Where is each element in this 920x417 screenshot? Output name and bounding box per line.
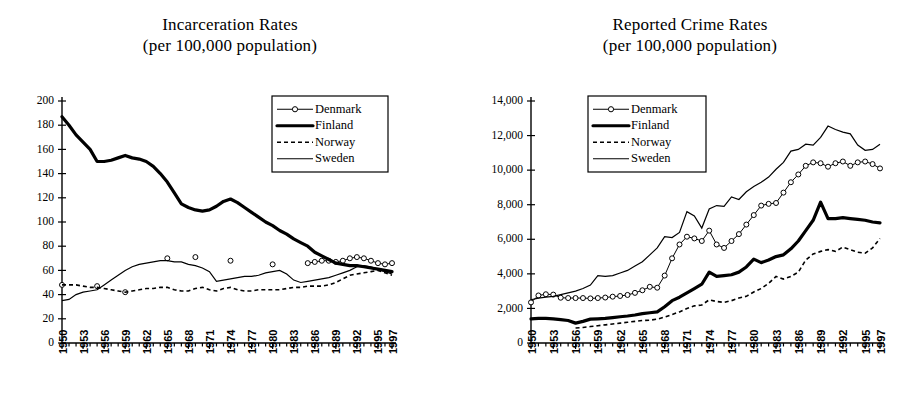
legend-label-denmark: Denmark [631,102,678,116]
x-tick-label: 1974 [704,329,716,354]
series-marker-denmark [707,228,712,233]
x-tick-label: 1989 [330,330,342,354]
x-tick-label: 1956 [570,330,582,354]
plot-area-incarceration: 0204060801001201401601802001950195319561… [0,0,460,417]
series-marker-denmark [796,172,801,177]
series-marker-denmark [684,234,689,239]
y-tick-label: 60 [43,264,55,276]
series-marker-denmark [573,296,578,301]
legend-label-sweden: Sweden [631,151,671,165]
legend-label-norway: Norway [631,135,672,149]
series-marker-denmark [347,256,352,261]
x-tick-label: 1997 [387,330,399,354]
legend-label-denmark: Denmark [315,102,362,116]
x-tick-label: 1980 [267,330,279,354]
series-marker-denmark [863,159,868,164]
series-marker-denmark [774,200,779,205]
y-tick-label: 100 [37,215,55,227]
series-marker-denmark [788,180,793,185]
x-tick-label: 1971 [204,330,216,354]
chart-panel-incarceration: Incarceration Rates (per 100,000 populat… [0,0,460,417]
series-marker-denmark [390,261,395,266]
x-tick-label: 1953 [548,330,560,354]
series-marker-denmark [368,258,373,263]
series-marker-denmark [833,161,838,166]
y-tick-label: 8,000 [497,198,523,211]
y-tick-label: 0 [517,336,523,348]
series-marker-denmark [759,203,764,208]
y-tick-label: 160 [37,143,55,155]
x-tick-label: 1995 [860,330,872,354]
x-tick-label: 1983 [288,330,300,354]
series-marker-denmark [840,159,845,164]
series-marker-denmark [536,293,541,298]
x-tick-label: 1962 [141,330,153,354]
series-marker-denmark [312,259,317,264]
y-tick-label: 10,000 [491,163,523,176]
series-marker-denmark [870,162,875,167]
x-tick-label: 1986 [793,330,805,354]
series-marker-denmark [566,296,571,301]
series-marker-denmark [595,296,600,301]
series-marker-denmark [714,242,719,247]
series-marker-denmark [855,160,860,165]
series-marker-denmark [361,256,366,261]
x-tick-label: 1977 [726,330,738,354]
x-tick-label: 1959 [592,330,604,354]
series-marker-denmark [677,242,682,247]
y-tick-label: 4,000 [497,267,523,280]
series-marker-denmark [618,293,623,298]
series-line-sweden [62,261,392,301]
x-tick-label: 1986 [309,330,321,354]
y-tick-label: 200 [37,94,55,106]
series-marker-denmark [354,255,359,260]
series-marker-denmark [580,296,585,301]
x-tick-label: 1997 [875,330,887,354]
legend-label-sweden: Sweden [315,151,355,165]
series-marker-denmark [558,295,563,300]
series-marker-denmark [529,300,534,305]
plot-area-crime: 02,0004,0006,0008,00010,00012,00014,0001… [460,0,920,417]
x-tick-label: 1950 [57,330,69,354]
series-marker-denmark [662,273,667,278]
x-tick-label: 1962 [615,330,627,354]
y-tick-label: 12,000 [491,129,523,142]
series-line-norway [62,270,392,292]
series-line-norway [576,238,880,328]
series-marker-denmark [319,258,324,263]
series-marker-denmark [826,164,831,169]
series-marker-denmark [543,292,548,297]
series-marker-denmark [803,163,808,168]
x-tick-label: 1950 [526,330,538,354]
series-marker-denmark [603,295,608,300]
x-tick-label: 1968 [183,330,195,354]
series-marker-denmark [382,262,387,267]
x-tick-label: 1968 [659,330,671,354]
series-marker-denmark [655,285,660,290]
series-marker-denmark [729,239,734,244]
series-marker-denmark [811,160,816,165]
x-tick-label: 1992 [351,330,363,354]
series-marker-denmark [818,161,823,166]
series-marker-denmark [744,222,749,227]
series-marker-denmark [647,284,652,289]
series-marker-denmark [722,245,727,250]
series-marker-denmark [848,163,853,168]
x-tick-label: 1983 [771,330,783,354]
x-tick-label: 1953 [78,330,90,354]
series-marker-denmark [640,288,645,293]
y-tick-label: 14,000 [491,94,523,107]
x-tick-label: 1971 [681,330,693,354]
series-marker-denmark [736,232,741,237]
y-tick-label: 20 [43,312,55,324]
chart-panel-crime: Reported Crime Rates (per 100,000 popula… [460,0,920,417]
y-tick-label: 120 [37,191,55,203]
series-marker-denmark [781,190,786,195]
x-tick-label: 1974 [225,329,237,354]
series-marker-denmark [670,256,675,261]
series-marker-denmark [610,294,615,299]
series-marker-denmark [270,262,275,267]
x-tick-label: 1992 [837,330,849,354]
x-tick-label: 1977 [246,330,258,354]
x-tick-label: 1959 [120,330,132,354]
